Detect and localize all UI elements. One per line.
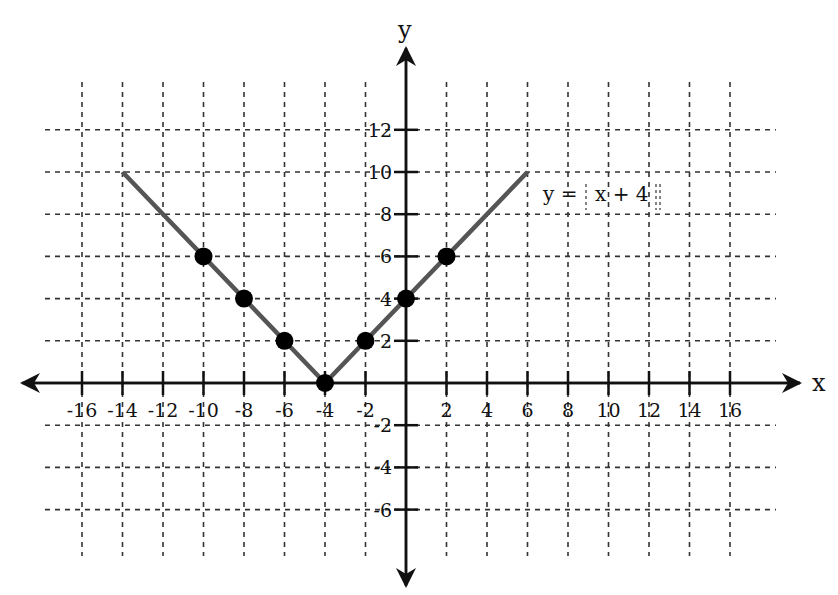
y-axis-label: y: [397, 16, 412, 44]
x-axis-label: x: [812, 369, 826, 397]
y-tick-label: -4: [373, 456, 392, 478]
x-tick-label: -14: [107, 399, 138, 421]
x-tick-label: -10: [188, 399, 219, 421]
x-tick-label: 2: [440, 399, 452, 421]
x-tick-label: 12: [637, 399, 661, 421]
y-tick-label: -2: [373, 414, 392, 436]
y-tick-label: 8: [380, 203, 392, 225]
y-tick-label: 10: [368, 161, 392, 183]
y-tick-label: 4: [380, 288, 392, 310]
x-tick-label: 8: [562, 399, 574, 421]
data-point: [195, 247, 213, 265]
data-point: [357, 332, 375, 350]
y-tick-label: 2: [380, 330, 392, 352]
coordinate-plane: -16-14-12-10-8-6-4-224681012141612108642…: [0, 0, 838, 595]
y-tick-label: -6: [373, 499, 392, 521]
tick-labels: -16-14-12-10-8-6-4-224681012141612108642…: [67, 119, 742, 521]
data-point: [276, 332, 294, 350]
data-point: [397, 290, 415, 308]
x-tick-label: 10: [596, 399, 620, 421]
grid-lines: [45, 82, 776, 556]
equation-prefix: y =: [542, 182, 577, 206]
x-tick-label: -6: [275, 399, 294, 421]
data-point: [235, 290, 253, 308]
equation-annotation: y = x + 4: [542, 182, 660, 210]
y-tick-label: 6: [380, 245, 392, 267]
x-tick-label: 4: [481, 399, 493, 421]
x-tick-label: -16: [67, 399, 98, 421]
equation-body: x + 4: [595, 182, 648, 206]
x-tick-label: -2: [356, 399, 375, 421]
x-tick-label: -8: [235, 399, 254, 421]
y-tick-label: 12: [368, 119, 392, 141]
x-tick-label: 16: [718, 399, 742, 421]
data-point: [316, 374, 334, 392]
data-point: [438, 247, 456, 265]
chart-canvas: -16-14-12-10-8-6-4-224681012141612108642…: [0, 0, 838, 595]
x-tick-label: 14: [677, 399, 701, 421]
x-tick-label: 6: [521, 399, 533, 421]
x-tick-label: -12: [148, 399, 179, 421]
x-tick-label: -4: [316, 399, 335, 421]
